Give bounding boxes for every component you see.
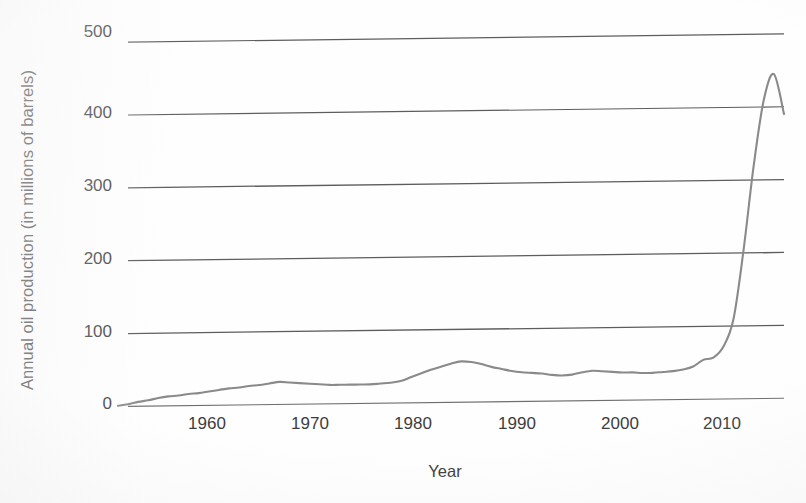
grid-line-200 — [128, 252, 784, 260]
chart-figure: Annual oil production (in millions of ba… — [0, 0, 806, 503]
data-line-annual-oil-production — [118, 74, 784, 406]
grid-line-100 — [128, 325, 784, 333]
grid-line-0 — [128, 398, 784, 406]
plot-area — [0, 0, 806, 503]
grid-line-400 — [128, 107, 784, 115]
grid-lines — [128, 34, 784, 406]
grid-line-300 — [128, 180, 784, 188]
grid-line-500 — [128, 34, 784, 42]
